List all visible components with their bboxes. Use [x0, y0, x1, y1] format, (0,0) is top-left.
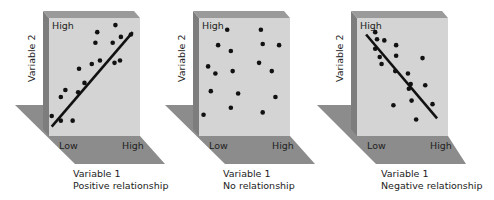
- data-point: [270, 69, 275, 74]
- panel-top: [43, 11, 140, 18]
- data-point: [406, 71, 411, 76]
- x-high-label: High: [122, 140, 144, 151]
- data-point: [257, 61, 262, 66]
- y-axis-label: Variable 2: [176, 34, 187, 82]
- data-point: [112, 61, 117, 66]
- data-point: [423, 83, 428, 88]
- data-point: [209, 89, 214, 94]
- panel-top: [193, 11, 290, 18]
- x-axis-label: Variable 1: [223, 168, 271, 179]
- data-point: [230, 69, 235, 74]
- y-axis-label: Variable 2: [334, 34, 345, 82]
- x-low-label: Low: [59, 140, 78, 151]
- data-point: [82, 81, 87, 86]
- data-point: [49, 114, 54, 119]
- panel-face: [199, 18, 290, 136]
- caption: No relationship: [223, 180, 295, 191]
- data-point: [394, 53, 399, 58]
- data-point: [216, 43, 221, 48]
- panel-top: [351, 11, 448, 18]
- x-axis-label: Variable 1: [73, 168, 121, 179]
- y-high-label: High: [52, 20, 74, 31]
- data-point: [430, 102, 435, 107]
- data-point: [229, 105, 234, 110]
- data-point: [95, 30, 100, 35]
- data-point: [409, 98, 414, 103]
- data-point: [382, 38, 387, 43]
- data-point: [377, 55, 382, 60]
- panel-positive: High Variable 2 Low High Variable 1 Posi…: [15, 11, 168, 191]
- data-point: [408, 82, 413, 87]
- data-point: [213, 71, 218, 76]
- data-point: [373, 46, 378, 51]
- panel-none: High Variable 2 Low High Variable 1 No r…: [165, 11, 315, 191]
- data-point: [118, 58, 123, 63]
- data-point: [77, 66, 82, 71]
- y-high-label: High: [360, 20, 382, 31]
- data-point: [394, 43, 399, 48]
- data-point: [229, 49, 234, 54]
- data-point: [260, 110, 265, 115]
- data-point: [259, 28, 264, 33]
- data-point: [273, 95, 278, 100]
- data-point: [70, 118, 75, 123]
- caption: Positive relationship: [73, 180, 168, 191]
- data-point: [129, 32, 134, 37]
- data-point: [89, 62, 94, 67]
- data-point: [93, 40, 98, 45]
- x-low-label: Low: [209, 140, 228, 151]
- data-point: [206, 64, 211, 69]
- data-point: [59, 118, 64, 123]
- data-point: [59, 95, 64, 100]
- panel-side: [351, 11, 357, 136]
- data-point: [98, 58, 103, 63]
- data-point: [420, 56, 425, 61]
- panel-side: [43, 11, 49, 136]
- x-high-label: High: [272, 140, 294, 151]
- x-low-label: Low: [367, 140, 386, 151]
- y-axis-label: Variable 2: [26, 34, 37, 82]
- data-point: [375, 37, 380, 42]
- data-point: [225, 28, 230, 33]
- data-point: [236, 91, 241, 96]
- caption: Negative relationship: [381, 180, 483, 191]
- data-point: [119, 35, 124, 40]
- data-point: [277, 43, 282, 48]
- x-axis-label: Variable 1: [381, 168, 429, 179]
- data-point: [373, 30, 378, 35]
- x-high-label: High: [430, 140, 452, 151]
- data-point: [407, 87, 412, 92]
- y-high-label: High: [202, 20, 224, 31]
- data-point: [379, 62, 384, 67]
- data-point: [260, 42, 265, 47]
- data-point: [201, 112, 206, 117]
- data-point: [110, 40, 115, 45]
- panel-negative: High Variable 2 Low High Variable 1 Nega…: [317, 11, 483, 191]
- data-point: [113, 23, 118, 28]
- scatter-diagram: High Variable 2 Low High Variable 1 Posi…: [0, 0, 494, 200]
- data-point: [393, 69, 398, 74]
- panel-side: [193, 11, 199, 136]
- data-point: [63, 88, 68, 93]
- data-point: [414, 117, 419, 122]
- data-point: [391, 103, 396, 108]
- data-point: [76, 90, 81, 95]
